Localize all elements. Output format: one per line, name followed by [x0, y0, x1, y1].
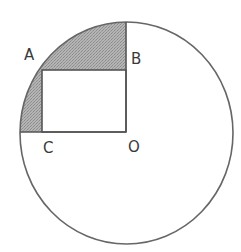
- label-b: B: [131, 50, 141, 68]
- rectangle-acob: [42, 70, 126, 132]
- label-o: O: [128, 138, 140, 156]
- label-c: C: [43, 139, 53, 157]
- label-a: A: [24, 46, 35, 64]
- geometry-diagram: A B C O: [0, 0, 241, 252]
- diagram-canvas: A B C O: [0, 0, 241, 252]
